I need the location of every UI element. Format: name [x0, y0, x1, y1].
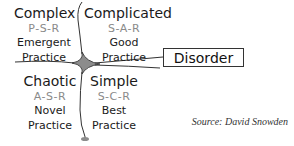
practice-line-1: Best [86, 105, 142, 117]
quadrant-title: Complex [14, 6, 74, 20]
quadrant-title: Complicated [84, 6, 164, 20]
practice-line-1: Good [84, 37, 164, 49]
practice-line-2: Practice [84, 52, 164, 64]
disorder-label: Disorder [163, 48, 244, 67]
quadrant-complex: Complex P-S-R Emergent Practice [14, 6, 74, 64]
quadrant-code: S-A-R [84, 23, 164, 34]
practice-line-1: Emergent [14, 37, 74, 49]
quadrant-code: P-S-R [14, 23, 74, 34]
quadrant-chaotic: Chaotic A-S-R Novel Practice [22, 74, 78, 132]
quadrant-complicated: Complicated S-A-R Good Practice [84, 6, 164, 64]
source-caption: Source: David Snowden [192, 116, 288, 127]
quadrant-code: A-S-R [22, 91, 78, 102]
quadrant-title: Chaotic [22, 74, 78, 88]
practice-line-2: Practice [14, 52, 74, 64]
practice-line-2: Practice [86, 120, 142, 132]
quadrant-code: S-C-R [86, 91, 142, 102]
practice-line-2: Practice [22, 120, 78, 132]
quadrant-simple: Simple S-C-R Best Practice [86, 74, 142, 132]
cynefin-diagram: Complex P-S-R Emergent Practice Complica… [0, 0, 294, 146]
quadrant-title: Simple [86, 74, 142, 88]
practice-line-1: Novel [22, 105, 78, 117]
